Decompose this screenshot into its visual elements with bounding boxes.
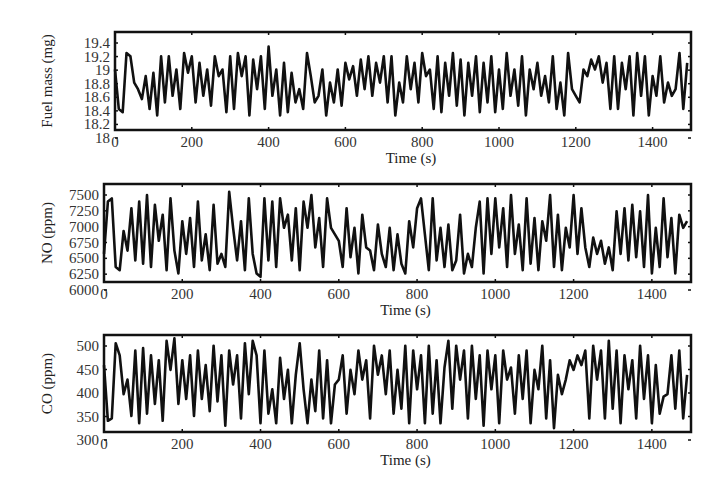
x-axis-title: Time (s) [380,452,431,469]
x-axis-title: Time (s) [386,150,437,167]
x-tick-label: 0 [100,286,108,302]
x-tick-label: 400 [249,286,272,302]
x-tick-label: 800 [406,436,429,452]
x-tick-label: 600 [334,134,357,150]
y-axis-title: Fuel mass (mg) [39,34,56,127]
x-tick-label: 0 [100,436,108,452]
x-tick-label: 400 [249,436,272,452]
x-tick-label: 1000 [484,134,514,150]
x-tick-label: 1000 [480,436,510,452]
x-tick-label: 0 [111,134,119,150]
y-tick-label: 400 [77,385,100,401]
data-line [104,192,687,277]
figure: 02004006008001000120014001818.218.418.61… [0,0,723,493]
y-tick-label: 450 [77,362,100,378]
y-tick-label: 7000 [69,219,99,235]
y-tick-label: 6500 [69,250,99,266]
y-tick-label: 19.4 [84,35,111,51]
data-line [104,338,687,428]
x-tick-label: 1000 [480,286,510,302]
x-tick-label: 400 [257,134,280,150]
y-axis-title: NO (ppm) [39,202,56,264]
x-tick-label: 800 [406,286,429,302]
x-tick-label: 200 [171,436,194,452]
x-tick-label: 1400 [637,286,667,302]
x-tick-label: 1400 [637,436,667,452]
x-axis-title: Time (s) [380,302,431,319]
y-tick-label: 500 [77,338,100,354]
y-axis-title: CO (ppm) [39,353,56,414]
x-tick-label: 600 [328,436,351,452]
y-tick-label: 350 [77,409,100,425]
fuel-mass-plot: 02004006008001000120014001818.218.418.61… [39,32,691,167]
x-tick-label: 600 [328,286,351,302]
y-tick-label: 7250 [69,203,99,219]
x-tick-label: 1400 [638,134,668,150]
co-plot: 0200400600800100012001400300350400450500… [39,335,691,469]
y-tick-label: 6000 [69,282,99,298]
x-tick-label: 800 [411,134,434,150]
data-line [115,47,687,116]
y-tick-label: 6750 [69,235,99,251]
x-tick-label: 200 [181,134,204,150]
x-tick-label: 1200 [559,436,589,452]
y-tick-label: 300 [77,432,100,448]
x-tick-label: 1200 [559,286,589,302]
y-tick-label: 6250 [69,266,99,282]
y-tick-label: 7500 [69,187,99,203]
x-tick-label: 200 [171,286,194,302]
no-plot: 0200400600800100012001400600062506500675… [39,184,691,319]
x-tick-label: 1200 [561,134,591,150]
